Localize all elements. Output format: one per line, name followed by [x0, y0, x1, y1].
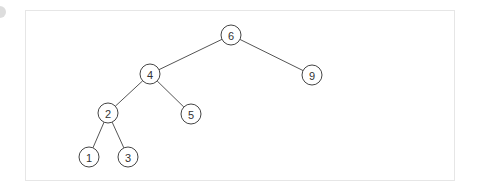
node-label: 1	[86, 152, 92, 164]
tree-node-1: 1	[79, 147, 99, 167]
tree-node-9: 9	[302, 65, 322, 85]
tree-nodes: 6492513	[79, 25, 322, 167]
tree-node-5: 5	[181, 104, 201, 124]
tree-edge	[240, 39, 303, 70]
node-label: 3	[125, 152, 131, 164]
tree-edge	[157, 81, 184, 107]
node-label: 4	[147, 69, 153, 81]
tree-edge	[159, 39, 222, 69]
tree-edges	[93, 39, 303, 148]
tree-diagram: 6492513	[0, 0, 477, 194]
tree-node-6: 6	[221, 25, 241, 45]
node-label: 5	[188, 109, 194, 121]
tree-edge	[112, 122, 124, 148]
tree-node-3: 3	[118, 147, 138, 167]
node-label: 6	[228, 30, 234, 42]
node-label: 9	[309, 70, 315, 82]
tree-node-4: 4	[140, 64, 160, 84]
tree-edge	[93, 122, 104, 148]
node-label: 2	[105, 108, 111, 120]
tree-edge	[115, 81, 142, 106]
tree-node-2: 2	[98, 103, 118, 123]
